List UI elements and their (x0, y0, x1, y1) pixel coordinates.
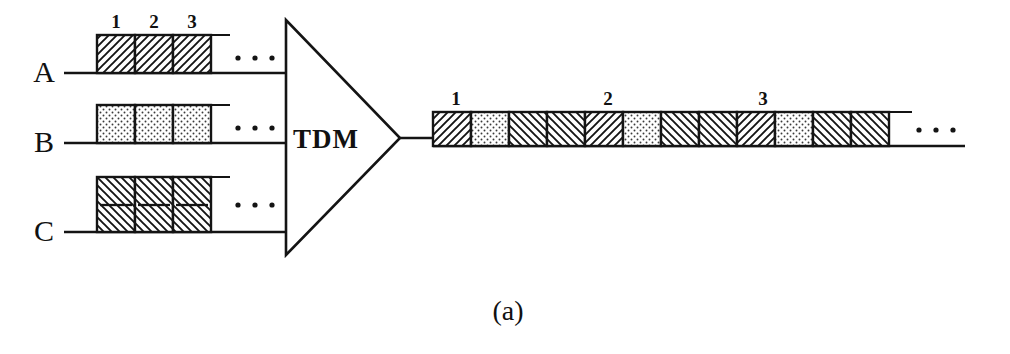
channel-c-label: C (34, 214, 54, 247)
output-frame-label-3: 3 (758, 88, 768, 109)
channel-b-slot-2 (135, 105, 173, 143)
channel-a-label: A (33, 55, 55, 88)
channel-a-slots (97, 35, 211, 73)
output-frame-label-2: 2 (603, 88, 613, 109)
output-cell-3-c (509, 112, 547, 146)
input-channel-b: B (34, 105, 286, 158)
output-cell-8-c (699, 112, 737, 146)
channel-a-slot-label-3: 3 (187, 11, 197, 32)
output-cell-4-c (547, 112, 585, 146)
channel-c-ellipsis (235, 202, 274, 207)
channel-b-label: B (34, 125, 54, 158)
input-channel-c: C (34, 177, 286, 247)
channel-c-slots (97, 177, 211, 232)
channel-b-slot-3 (173, 105, 211, 143)
output-cell-6-b (623, 112, 661, 146)
tdm-label: TDM (293, 124, 359, 154)
output-cell-2-b (471, 112, 509, 146)
output-cell-10-b (775, 112, 813, 146)
output-cell-5-a (585, 112, 623, 146)
channel-a-slot-2 (135, 35, 173, 73)
output-cell-9-a (737, 112, 775, 146)
channel-a-slot-label-2: 2 (149, 11, 159, 32)
tdm-diagram: 1 2 3 A B (0, 0, 1010, 354)
channel-a-slot-3 (173, 35, 211, 73)
output-cell-12-c (851, 112, 889, 146)
output-ellipsis (916, 127, 955, 132)
output-frame-label-1: 1 (451, 88, 461, 109)
input-channel-a: 1 2 3 A (33, 11, 286, 88)
channel-b-slot-1 (97, 105, 135, 143)
channel-a-ellipsis (235, 55, 274, 60)
output-cell-1-a (433, 112, 471, 146)
output-cell-11-c (813, 112, 851, 146)
channel-a-slot-label-1: 1 (111, 11, 121, 32)
output-stream: 1 2 3 (400, 88, 965, 146)
channel-a-slot-1 (97, 35, 135, 73)
channel-b-ellipsis (235, 125, 274, 130)
tdm-multiplexer[interactable]: TDM (286, 20, 400, 255)
output-cells (433, 112, 889, 146)
channel-b-slots (97, 105, 211, 143)
figure-caption: (a) (492, 295, 523, 326)
output-cell-7-c (661, 112, 699, 146)
